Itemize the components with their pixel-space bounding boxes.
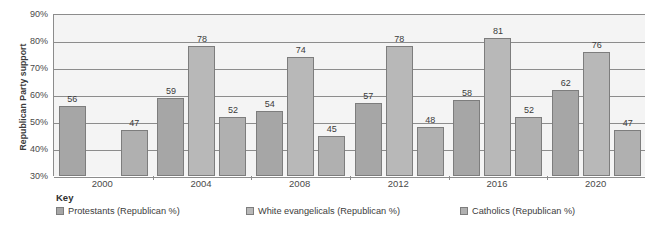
legend-item-label: Protestants (Republican %) [68, 206, 180, 216]
bar-group-2020: 627647 [547, 15, 646, 176]
bar [484, 38, 511, 176]
legend-swatch-icon [56, 207, 64, 215]
bar-value-label: 52 [213, 105, 253, 115]
bar-value-label: 78 [182, 34, 222, 44]
chart-title [60, 0, 620, 1]
y-axis-tick-label: 80% [4, 36, 48, 46]
bar [157, 98, 184, 176]
bar [121, 130, 148, 176]
bar-value-label: 54 [250, 99, 290, 109]
bar-group-2008: 547445 [251, 15, 350, 176]
legend-item-list: Protestants (Republican %)White evangeli… [56, 206, 636, 219]
footer-note [56, 231, 616, 237]
legend-item-label: Catholics (Republican %) [472, 206, 575, 216]
bar-value-label: 58 [447, 88, 487, 98]
y-axis-tick-labels: 90%80%70%60%50%40%30% [0, 14, 48, 176]
bar-group-2012: 577848 [350, 15, 449, 176]
bar-value-label: 52 [509, 105, 549, 115]
y-axis-tick-label: 50% [4, 117, 48, 127]
bar-value-label: 59 [151, 86, 191, 96]
legend-item[interactable]: Catholics (Republican %) [460, 206, 575, 216]
bar [59, 106, 86, 176]
bar-value-label: 62 [546, 78, 586, 88]
legend-item[interactable]: White evangelicals (Republican %) [246, 206, 400, 216]
x-axis-tick-label: 2000 [62, 178, 142, 189]
bar-value-label: 45 [312, 124, 352, 134]
bar-value-label: 76 [577, 40, 617, 50]
x-axis-tick-label: 2008 [260, 178, 340, 189]
bar [417, 127, 444, 176]
bar-group-2000: 5647 [54, 15, 153, 176]
bar-value-label: 48 [410, 115, 450, 125]
bar [614, 130, 641, 176]
bar-value-label: 47 [114, 118, 154, 128]
bar [318, 136, 345, 177]
bar [256, 111, 283, 176]
bar-value-label: 81 [478, 26, 518, 36]
bar-value-label: 47 [608, 118, 648, 128]
legend-swatch-icon [246, 207, 254, 215]
legend-title: Key [56, 192, 636, 203]
bar [552, 90, 579, 176]
bar-group-2016: 588152 [449, 15, 548, 176]
legend-item-label: White evangelicals (Republican %) [258, 206, 400, 216]
bar [386, 46, 413, 176]
bar-value-label: 57 [348, 91, 388, 101]
grouped-bar-chart: Republican Party support 90%80%70%60%50%… [0, 0, 656, 237]
bar-value-label: 74 [281, 45, 321, 55]
bar [583, 52, 610, 176]
bar [188, 46, 215, 176]
bar-group-2004: 597852 [153, 15, 252, 176]
x-axis-tick-label: 2016 [457, 178, 537, 189]
bar-value-label: 56 [52, 94, 92, 104]
x-axis-tick-label: 2012 [358, 178, 438, 189]
legend-item[interactable]: Protestants (Republican %) [56, 206, 180, 216]
legend-swatch-icon [460, 207, 468, 215]
bar [355, 103, 382, 176]
y-axis-tick-label: 30% [4, 171, 48, 181]
plot-inner: 5647597852547445577848588152627647 [54, 15, 645, 176]
x-axis-tick-labels: 200020042008201220162020 [53, 178, 645, 192]
plot-area: 5647597852547445577848588152627647 [53, 14, 645, 176]
y-axis-tick-label: 70% [4, 63, 48, 73]
bar [515, 117, 542, 176]
chart-legend: Key Protestants (Republican %)White evan… [56, 192, 636, 219]
bar [287, 57, 314, 176]
y-axis-tick-label: 90% [4, 9, 48, 19]
bar [453, 100, 480, 176]
y-axis-tick-label: 60% [4, 90, 48, 100]
bar-value-label: 78 [379, 34, 419, 44]
x-axis-tick-label: 2004 [161, 178, 241, 189]
bar [219, 117, 246, 176]
y-axis-tick-label: 40% [4, 144, 48, 154]
x-axis-tick-label: 2020 [556, 178, 636, 189]
